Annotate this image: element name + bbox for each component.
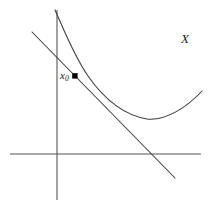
point-label-x0: x0 xyxy=(60,70,69,81)
figure-canvas xyxy=(0,0,210,209)
set-label-x: X xyxy=(181,32,189,45)
tangent-line xyxy=(32,32,175,178)
point-label-subscript: 0 xyxy=(65,74,69,83)
convex-curve xyxy=(55,10,202,119)
math-figure: x0 X xyxy=(0,0,210,209)
tangent-point xyxy=(72,73,77,78)
